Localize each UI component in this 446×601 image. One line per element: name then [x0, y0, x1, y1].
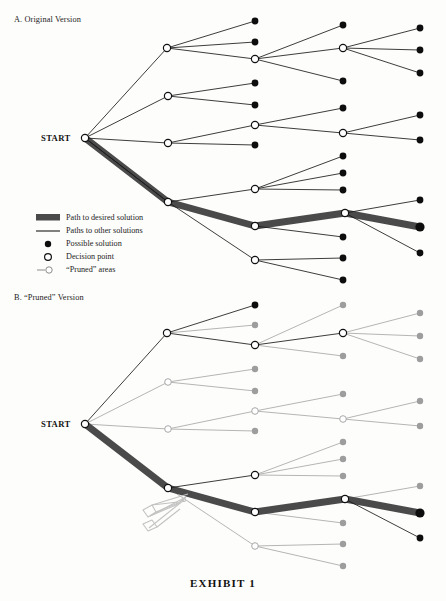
legend-label-pruned: “Pruned” areas	[66, 265, 115, 274]
branches-a4	[255, 25, 343, 81]
path-desired-solution-b	[85, 424, 420, 513]
exhibit-caption: EXHIBIT 1	[0, 577, 446, 589]
legend-swatches	[36, 214, 60, 273]
branches-a6	[343, 28, 420, 73]
active-decision-nodes-b	[81, 329, 348, 515]
branches-a2	[168, 83, 255, 105]
pruned-decision-nodes-b	[165, 379, 347, 550]
pruned-stub-icon	[37, 267, 52, 273]
legend-label-thin-path: Paths to other solutions	[66, 226, 143, 235]
legend-label-thick-path: Path to desired solution	[66, 213, 143, 222]
legend-label-decision: Decision point	[66, 252, 114, 261]
panel-b-heading: B. “Pruned” Version	[14, 293, 84, 302]
solution-nodes-a	[252, 18, 425, 284]
exhibit-figure: .thin{stroke:#1a1a1a;stroke-width:.85;fi…	[0, 0, 446, 601]
branches-a9	[255, 156, 343, 190]
branches-a7	[343, 115, 420, 140]
branches-start-a	[85, 48, 168, 202]
branches-a1	[167, 21, 255, 59]
open-circle-icon	[45, 254, 52, 261]
branches-a3	[168, 125, 255, 145]
panel-b-tree	[81, 302, 424, 570]
branches-a5	[255, 108, 343, 133]
branches-a10	[255, 226, 343, 237]
start-label-b: START	[41, 419, 70, 429]
panel-a-tree	[81, 18, 424, 284]
legend-label-solution: Possible solution	[66, 239, 122, 248]
panel-a-heading: A. Original Version	[14, 15, 81, 24]
start-label-a: START	[41, 133, 70, 143]
filled-circle-icon	[45, 241, 51, 247]
thick-bar-swatch	[36, 214, 60, 221]
branches-a11	[255, 258, 343, 280]
pruning-shears-icon	[143, 494, 188, 531]
